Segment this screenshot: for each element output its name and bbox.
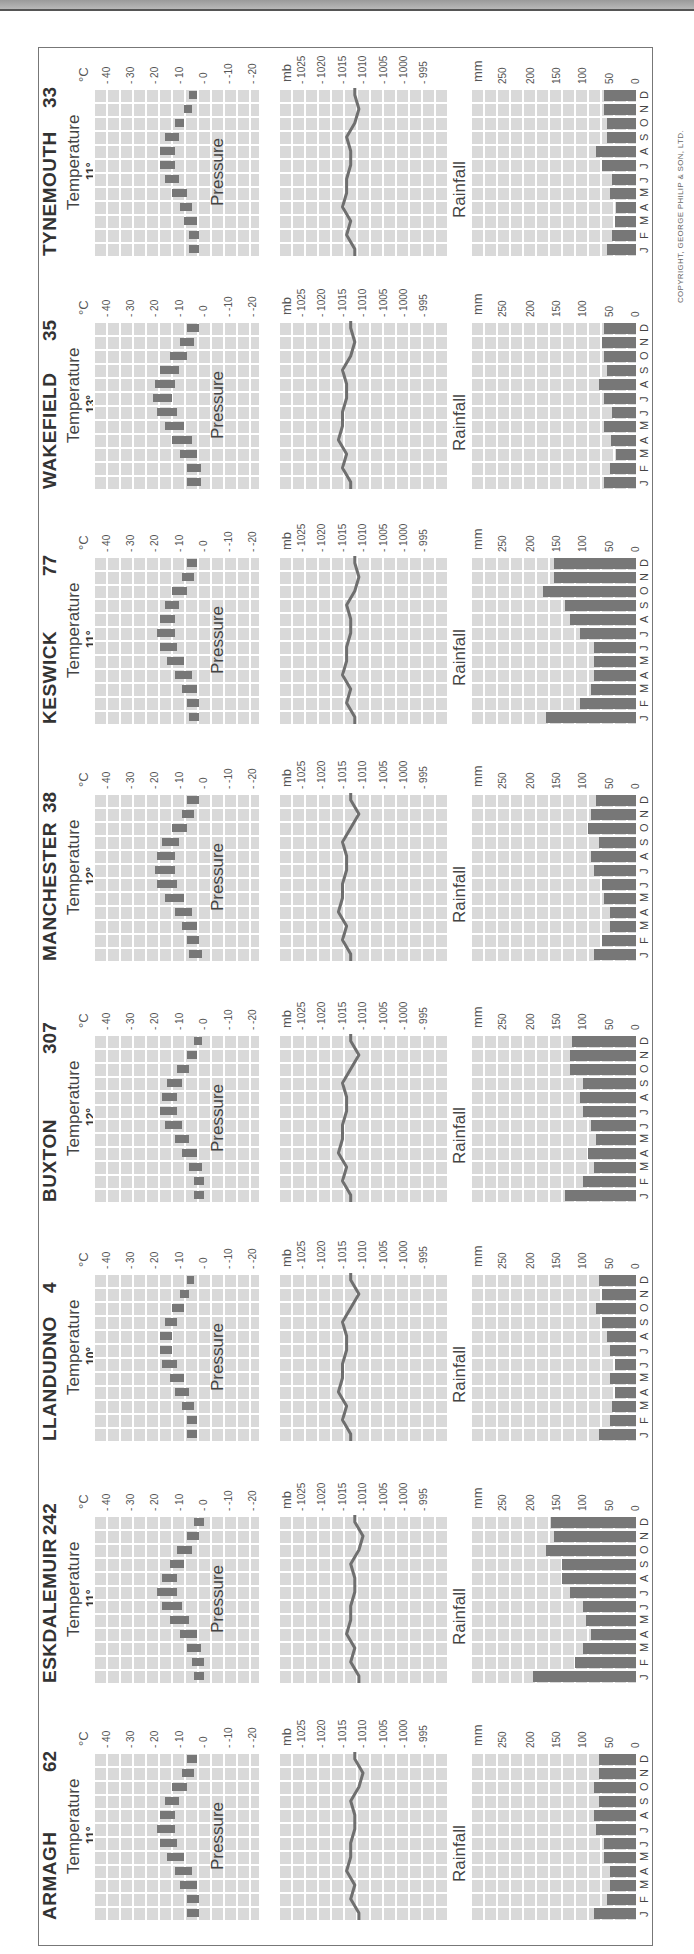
rainfall-tick: 250 xyxy=(497,1731,508,1748)
rainfall-bar xyxy=(604,1852,636,1863)
month-label: N xyxy=(638,1769,650,1777)
rainfall-bar xyxy=(610,1866,637,1877)
rainfall-tick: 200 xyxy=(525,1731,536,1748)
month-label: J xyxy=(638,1828,650,1834)
rainfall-label: Rainfall xyxy=(450,1825,470,1882)
month-label: D xyxy=(638,1755,650,1763)
rainfall-tick: 100 xyxy=(577,1731,588,1748)
rainfall-bar xyxy=(607,1894,636,1905)
month-label: O xyxy=(638,1782,650,1791)
rainfall-tick: 0 xyxy=(630,1742,641,1748)
month-label: F xyxy=(638,1896,650,1903)
rainfall-bar xyxy=(594,1908,636,1919)
copyright-note: COPYRIGHT, GEORGE PHILIP & SON, LTD. xyxy=(676,130,685,303)
pressure-line xyxy=(0,0,694,1954)
rainfall-bar xyxy=(599,1796,636,1807)
month-label: S xyxy=(638,1798,650,1805)
rainfall-bar xyxy=(599,1754,636,1765)
month-label: M xyxy=(638,1852,650,1861)
month-label: M xyxy=(638,1880,650,1889)
rainfall-bar xyxy=(599,1768,636,1779)
month-label: A xyxy=(638,1868,650,1875)
month-label: J xyxy=(638,1842,650,1848)
month-label: A xyxy=(638,1812,650,1819)
month-label: J xyxy=(638,1912,650,1918)
rainfall-bar xyxy=(596,1824,636,1835)
rainfall-bar xyxy=(594,1810,636,1821)
rainfall-tick: 50 xyxy=(604,1737,615,1748)
rainfall-bar xyxy=(610,1880,637,1891)
rainfall-unit: mm xyxy=(470,1724,485,1746)
rainfall-bar xyxy=(604,1838,636,1849)
rainfall-tick: 150 xyxy=(551,1731,562,1748)
rainfall-bar xyxy=(594,1782,636,1793)
